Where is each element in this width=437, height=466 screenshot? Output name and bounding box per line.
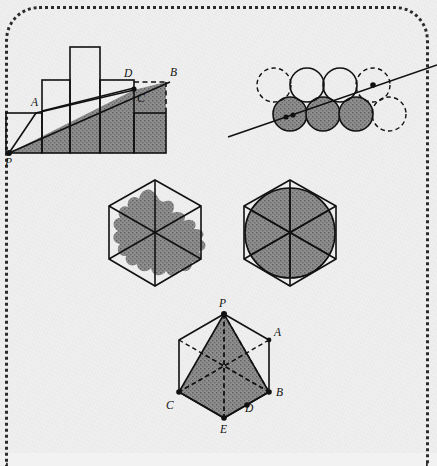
label-d: D: [123, 67, 133, 79]
point-c-dot: [131, 86, 136, 91]
vertex-a-dot: [267, 338, 272, 343]
hex-label-c: C: [166, 399, 174, 411]
label-a: A: [30, 96, 39, 108]
fig-hexagon-circle: [244, 180, 336, 286]
vertex-p-dot: [221, 311, 227, 317]
hex-label-d: D: [244, 402, 254, 414]
circle-dot-left-b: [290, 112, 295, 117]
circle-b1-shaded: [273, 97, 307, 131]
circle-t2: [290, 68, 324, 102]
hex-label-e: E: [219, 423, 227, 435]
circle-t3: [323, 68, 357, 102]
hex-label-p: P: [218, 297, 226, 309]
hex-label-b: B: [276, 386, 283, 398]
label-b: B: [170, 66, 177, 78]
fig-staircase: P A C D B: [4, 47, 177, 168]
circle-b4-dashed: [372, 97, 406, 131]
fig-circles: [228, 65, 437, 137]
circle-dot-right: [370, 82, 376, 88]
vertex-c-dot: [176, 389, 182, 395]
vertex-e-dot: [221, 415, 227, 421]
fig-hexagon-labeled: P A B C D E: [166, 297, 283, 435]
hexagon-blob-shape: [113, 189, 205, 275]
circle-dot-left-a: [283, 114, 288, 119]
hex-label-a: A: [273, 326, 282, 338]
fig-hexagon-blob: [109, 180, 206, 286]
vertex-b-dot: [266, 389, 272, 395]
label-p: P: [4, 156, 12, 168]
label-c: C: [137, 92, 145, 104]
